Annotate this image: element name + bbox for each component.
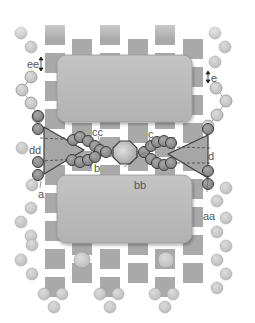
outer-bead: [104, 301, 116, 313]
outer-bead: [209, 56, 221, 68]
side-chain-bead: [16, 84, 28, 96]
outer-bead: [25, 202, 37, 214]
chain-bead: [33, 111, 44, 122]
side-chain-bead: [25, 71, 37, 83]
pad-bump: [74, 252, 90, 268]
outer-bead: [15, 216, 27, 228]
outer-bead: [211, 254, 223, 266]
outer-bead: [211, 226, 223, 238]
label-bb: bb: [134, 179, 146, 191]
outer-bead: [167, 288, 179, 300]
outer-bead: [220, 268, 232, 280]
outer-bead: [220, 240, 232, 252]
label-dd: dd: [29, 144, 41, 156]
outer-bead: [16, 142, 28, 154]
label-d: d: [208, 150, 214, 162]
label-c: c: [148, 128, 154, 140]
pad: [183, 263, 203, 283]
side-chain-bead: [211, 109, 223, 121]
arrow-ee-head-bottom: [39, 68, 43, 71]
outer-bead: [112, 288, 124, 300]
pad: [45, 249, 65, 269]
outer-bead: [220, 182, 232, 194]
outer-bead: [211, 195, 223, 207]
pointer-a: [40, 181, 41, 188]
label-aa: aa: [203, 210, 216, 222]
upper-block: [57, 55, 192, 122]
top-fade: [0, 0, 255, 40]
outer-bead: [26, 239, 38, 251]
chain-bead: [203, 124, 214, 135]
arrow-ee-head-top: [39, 57, 43, 60]
label-cc: cc: [92, 126, 104, 138]
outer-bead: [219, 41, 231, 53]
chain-bead: [90, 152, 101, 163]
chain-bead: [166, 138, 177, 149]
chain-bead: [101, 147, 112, 158]
pad-bump: [158, 252, 174, 268]
side-chain-bead: [220, 95, 232, 107]
outer-bead: [48, 301, 60, 313]
schematic-diagram: ee e dd d cc c bb b a aa: [0, 0, 255, 323]
pad: [100, 249, 120, 269]
outer-bead: [38, 288, 50, 300]
pad: [128, 263, 148, 283]
outer-bead: [159, 301, 171, 313]
outer-bead: [56, 288, 68, 300]
label-e: e: [211, 72, 217, 84]
label-ee: ee: [27, 58, 39, 70]
outer-bead: [26, 268, 38, 280]
chain-bead: [203, 166, 214, 177]
label-b: b: [94, 162, 100, 174]
outer-bead: [25, 41, 37, 53]
outer-bead: [15, 254, 27, 266]
outer-bead: [149, 288, 161, 300]
outer-bead: [211, 282, 223, 294]
arrow-e-head-top: [206, 71, 210, 74]
outer-bead: [220, 212, 232, 224]
outer-bead: [94, 288, 106, 300]
chain-bead: [33, 124, 44, 135]
side-chain-bead: [25, 97, 37, 109]
chain-bead: [166, 158, 177, 169]
chain-bead: [33, 170, 44, 181]
pad: [128, 123, 148, 143]
outer-bead: [26, 179, 38, 191]
chain-bead: [33, 157, 44, 168]
label-a: a: [38, 188, 45, 200]
arrow-e-head-bottom: [206, 80, 210, 83]
lower-block: [57, 175, 192, 243]
